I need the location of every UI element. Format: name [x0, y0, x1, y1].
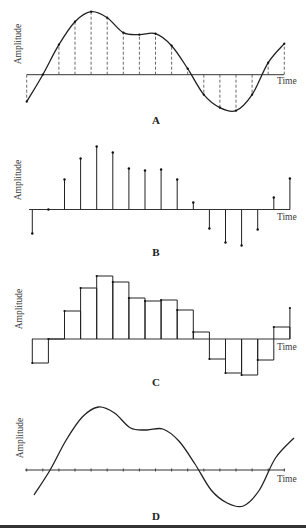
bottom-rule-divider [0, 525, 306, 528]
panel-d: Amplitude Time D [0, 0, 306, 530]
panel-d-amplitude-label: Amplitude [15, 418, 25, 459]
sampling-figure: Amplitude Time A Amplitude Time B Amplit… [0, 0, 306, 530]
panel-d-letter: D [152, 510, 160, 522]
panel-d-plot [0, 0, 306, 530]
panel-d-time-label: Time [277, 474, 297, 484]
panel-d-waveform [34, 407, 294, 507]
